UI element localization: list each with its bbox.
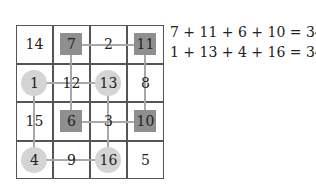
magic-square-grid: 14721111213815631049165 [16, 25, 164, 179]
equation-squares: 7 + 11 + 6 + 10 = 34 [170, 24, 316, 40]
cell-number: 11 [127, 25, 164, 64]
cell-number: 5 [127, 141, 164, 180]
cell-number: 16 [90, 141, 127, 180]
cell-number: 13 [90, 64, 127, 103]
cell-number: 9 [53, 141, 90, 180]
cell-number: 3 [90, 102, 127, 141]
cell-number: 1 [16, 64, 53, 103]
cell-number: 15 [16, 102, 53, 141]
equation-circles: 1 + 13 + 4 + 16 = 34 [170, 44, 316, 60]
cell-number: 12 [53, 64, 90, 103]
cell-number: 6 [53, 102, 90, 141]
cell-number: 4 [16, 141, 53, 180]
cell-number: 14 [16, 25, 53, 64]
cell-number: 10 [127, 102, 164, 141]
cell-number: 2 [90, 25, 127, 64]
cell-number: 8 [127, 64, 164, 103]
cell-number: 7 [53, 25, 90, 64]
